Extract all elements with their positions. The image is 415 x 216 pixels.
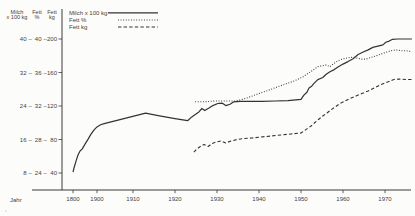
y-tick-label: – [44, 170, 48, 176]
x-tick-label: 1940 [252, 196, 266, 202]
y-tick-label: 28 [35, 137, 42, 143]
y-tick-label: 200 [47, 36, 58, 42]
y-tick-label: 32 [35, 103, 42, 109]
y-tick-label: 32 [20, 70, 27, 76]
y-tick-label: 40 [20, 36, 27, 42]
y-tick-label: – [29, 70, 33, 76]
x-axis-ticks: 180019001910192019301940195019601970 [66, 190, 392, 202]
x-tick-label: 1900 [90, 196, 104, 202]
y-tick-label: 40 [50, 170, 57, 176]
legend-label-fett-kg: Fett kg [69, 24, 87, 30]
x-tick-label: 1960 [336, 196, 350, 202]
legend-label-fett-pct: Fett % [69, 17, 87, 23]
x-tick-label: 1950 [294, 196, 308, 202]
legend-label-milch: Milch x 100 kg [69, 10, 107, 16]
y-axis-header: Milch x 100 kg Fett % Fett kg [7, 9, 58, 21]
y-tick-label: 8 [23, 170, 27, 176]
y-axis-header-fettkg-line2: kg [49, 14, 55, 20]
y-tick-label: – [29, 137, 33, 143]
x-tick-label: 1800 [66, 196, 80, 202]
x-tick-label: 1970 [378, 196, 392, 202]
y-axis-header-fettpct-line2: % [35, 14, 40, 20]
cropped-caption-artifact: „ [5, 206, 7, 212]
x-tick-label: 1920 [168, 196, 182, 202]
y-tick-label: – [44, 137, 48, 143]
y-tick-label: 40 [35, 36, 42, 42]
y-tick-label: – [29, 103, 33, 109]
plot-series [73, 39, 412, 172]
y-tick-label: 36 [35, 70, 42, 76]
y-tick-label: 80 [50, 137, 57, 143]
y-axis-header-milch-line2: x 100 kg [7, 14, 28, 20]
x-tick-label: 1910 [126, 196, 140, 202]
x-axis-title: Jahr [10, 197, 22, 203]
milk-yield-chart: Milch x 100 kg Fett % Fett kg Milch x 10… [0, 0, 415, 216]
series-line-dotted [195, 50, 412, 102]
y-tick-label: – [29, 170, 33, 176]
y-tick-label: – [29, 36, 33, 42]
y-axis-ticks: 40–40–20032–36–16024–32–12016–28–808–24–… [20, 36, 62, 176]
legend: Milch x 100 kg Fett % Fett kg [69, 10, 158, 30]
chart-canvas: Milch x 100 kg Fett % Fett kg Milch x 10… [0, 0, 415, 216]
y-tick-label: 24 [20, 103, 27, 109]
x-tick-label: 1930 [210, 196, 224, 202]
y-tick-label: 120 [47, 103, 58, 109]
series-line-solid [73, 39, 412, 172]
y-tick-label: 16 [20, 137, 27, 143]
y-tick-label: 160 [47, 70, 58, 76]
y-tick-label: 24 [35, 170, 42, 176]
series-line-dashed [194, 79, 412, 152]
